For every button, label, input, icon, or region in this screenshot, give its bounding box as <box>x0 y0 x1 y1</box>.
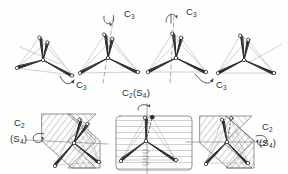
label-s4-bottom-right: (S4) <box>259 138 276 148</box>
molecule-top-2 <box>78 16 139 84</box>
label-s4-bottom-left: (S4) <box>10 134 27 144</box>
label-c2-s4-center: C2(S4) <box>122 88 150 98</box>
label-c2-bottom-left: C2 <box>14 118 25 128</box>
c3-transform-arrow-right <box>195 74 213 83</box>
c3-axis-line-2 <box>170 16 174 84</box>
c3-curl-arrow-2 <box>166 14 177 23</box>
c3-curl-arrow-1 <box>104 16 114 25</box>
molecule-top-1 <box>15 36 73 77</box>
symmetry-planes-bottom-right <box>186 116 268 168</box>
label-c3-bottom-right: C3 <box>216 80 227 90</box>
symmetry-planes-bottom-left <box>26 114 108 168</box>
label-c2-bottom-right: C2 <box>262 122 273 132</box>
symmetry-plane-bottom-center <box>116 104 192 174</box>
label-c3-top-right: C3 <box>186 7 197 17</box>
figure-canvas: C3 C3 C3 C3 C2(S4) C2 (S4) C2 (S4) <box>0 0 288 174</box>
label-c3-top-left: C3 <box>124 9 135 19</box>
diagram-drawing <box>0 0 288 174</box>
c3-axis-line-1 <box>103 17 114 83</box>
label-c3-bottom-left: C3 <box>76 80 87 90</box>
molecule-top-4 <box>216 34 282 75</box>
molecule-top-3 <box>146 14 207 84</box>
c2s4-curl-bottom-center <box>138 105 150 110</box>
